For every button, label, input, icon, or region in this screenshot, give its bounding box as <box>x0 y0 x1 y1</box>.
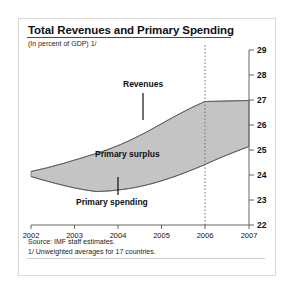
x-axis-label-2006: 2006 <box>188 231 222 240</box>
footnote-divider <box>27 258 265 259</box>
y-axis-label-24: 24 <box>257 170 273 180</box>
primary-surplus-band <box>31 101 249 192</box>
y-axis-label-26: 26 <box>257 120 273 130</box>
y-axis-label-23: 23 <box>257 195 273 205</box>
annotation-revenues: Revenues <box>123 79 163 89</box>
footnote-1: 1/ Unweighted averages for 17 countries. <box>28 247 156 257</box>
annotation-primary-spending: Primary spending <box>76 197 148 207</box>
x-axis-label-2007: 2007 <box>232 231 266 240</box>
y-axis-label-22: 22 <box>257 220 273 230</box>
chart-footnotes: Source: IMF staff estimates. 1/ Unweight… <box>28 237 156 257</box>
annotation-primary-surplus: Primary surplus <box>95 149 160 159</box>
y-axis-label-25: 25 <box>257 145 273 155</box>
y-axis-label-29: 29 <box>257 45 273 55</box>
source-note: Source: IMF staff estimates. <box>28 237 156 247</box>
y-axis-label-28: 28 <box>257 70 273 80</box>
y-axis-label-27: 27 <box>257 95 273 105</box>
chart-figure: Total Revenues and Primary Spending (In … <box>18 18 276 276</box>
